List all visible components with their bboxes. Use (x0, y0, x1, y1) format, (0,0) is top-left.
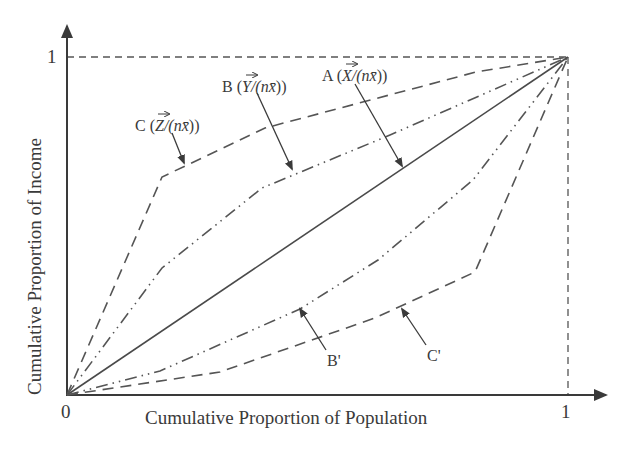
x-axis-title: Cumulative Proportion of Population (145, 407, 428, 428)
curve-a-equality-line (67, 57, 568, 395)
curve-b-label: B (Y/(nx̄)) (222, 75, 286, 96)
svg-text:A (X/(nx̄)): A (X/(nx̄)) (322, 67, 387, 85)
curve-a-pointer-arrow (355, 84, 402, 166)
y-tick-1: 1 (47, 46, 57, 67)
curve-b-pointer-arrow (257, 93, 292, 169)
curve-c-prime-pointer-arrow (402, 309, 426, 345)
svg-text:B (Y/(nx̄)): B (Y/(nx̄)) (222, 78, 286, 96)
curve-c-label: C (Z/(nx̄)) (135, 114, 199, 135)
y-axis-title: Cumulative Proportion of Income (24, 138, 45, 395)
curve-a-label: A (X/(nx̄)) (322, 64, 387, 85)
lorenz-curve-diagram: 1 0 1 Cumulative Proportion of Populatio… (0, 0, 633, 456)
svg-text:C (Z/(nx̄)): C (Z/(nx̄)) (135, 117, 199, 135)
x-tick-1: 1 (561, 401, 571, 422)
curve-b-prime-label: B' (327, 352, 341, 369)
curve-c-pointer-arrow (172, 133, 184, 163)
curve-c-prime-label: C' (427, 347, 441, 364)
origin-tick-0: 0 (61, 401, 71, 422)
curve-b-prime-pointer-arrow (300, 309, 326, 350)
